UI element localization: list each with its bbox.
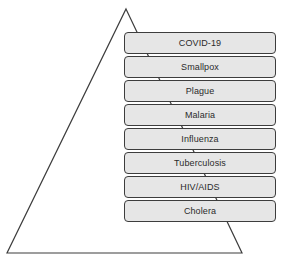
disease-box-hiv-aids[interactable]: HIV/AIDS — [124, 176, 276, 198]
diagram-canvas: COVID-19 Smallpox Plague Malaria Influen… — [0, 0, 292, 264]
disease-label: Plague — [186, 87, 215, 96]
disease-label: Smallpox — [181, 63, 219, 72]
disease-label: Malaria — [185, 111, 215, 120]
disease-box-stack: COVID-19 Smallpox Plague Malaria Influen… — [124, 32, 276, 225]
disease-box-malaria[interactable]: Malaria — [124, 104, 276, 126]
disease-label: Tuberculosis — [174, 159, 226, 168]
disease-box-influenza[interactable]: Influenza — [124, 128, 276, 150]
disease-box-plague[interactable]: Plague — [124, 80, 276, 102]
disease-label: HIV/AIDS — [180, 183, 219, 192]
disease-box-covid-19[interactable]: COVID-19 — [124, 32, 276, 54]
disease-label: Influenza — [181, 135, 218, 144]
disease-label: Cholera — [184, 207, 216, 216]
disease-label: COVID-19 — [179, 39, 221, 48]
disease-box-cholera[interactable]: Cholera — [124, 200, 276, 222]
disease-box-smallpox[interactable]: Smallpox — [124, 56, 276, 78]
disease-box-tuberculosis[interactable]: Tuberculosis — [124, 152, 276, 174]
